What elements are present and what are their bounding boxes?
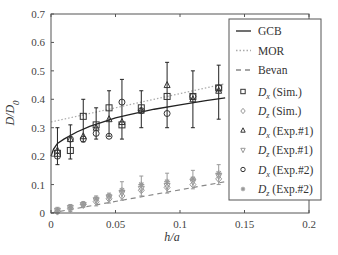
y-tick-label: 0	[40, 207, 46, 219]
x-tick-label: 0	[48, 218, 54, 230]
y-tick-label: 0.5	[31, 65, 45, 77]
x-axis-label: h/a	[164, 230, 179, 244]
plot-area	[51, 62, 225, 215]
chart: 00.050.10.150.200.10.20.30.40.50.60.7 h/…	[0, 0, 338, 255]
star-marker-icon	[106, 193, 112, 199]
star-marker-icon	[67, 204, 73, 210]
y-tick-label: 0.6	[31, 36, 45, 48]
legend: GCBMORBevanDx (Sim.)Dz (Sim.)Dx (Exp.#1)…	[229, 19, 321, 200]
x-tick-label: 0.2	[302, 218, 316, 230]
y-tick-label: 0.2	[31, 150, 45, 162]
legend-label-mor: MOR	[258, 45, 285, 57]
y-axis-label: D/D0	[3, 100, 21, 127]
mor-line	[51, 84, 225, 122]
y-tick-label: 0.7	[31, 8, 45, 20]
x-tick-label: 0.1	[173, 218, 187, 230]
y-tick-label: 0.4	[31, 93, 45, 105]
star-marker-icon	[241, 187, 245, 191]
y-tick-label: 0.3	[31, 122, 45, 134]
legend-label-gcb: GCB	[258, 25, 282, 37]
star-marker-icon	[119, 187, 125, 193]
legend-label-bevan: Bevan	[258, 64, 288, 76]
x-tick-label: 0.15	[235, 218, 255, 230]
star-marker-icon	[80, 201, 86, 207]
x-tick-label: 0.05	[106, 218, 126, 230]
y-tick-label: 0.1	[31, 179, 45, 191]
